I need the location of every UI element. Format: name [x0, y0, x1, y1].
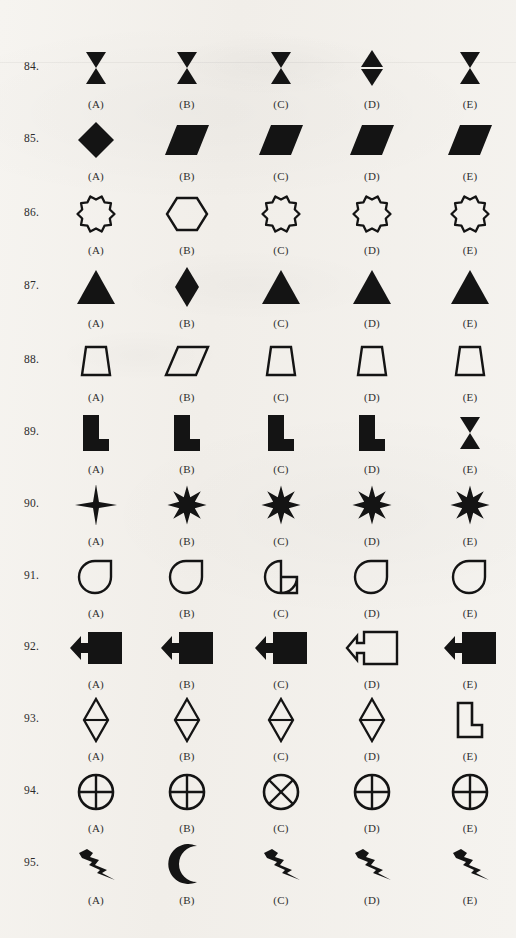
answer-option[interactable]: (E) [424, 477, 516, 547]
answer-option-label: (E) [424, 678, 516, 690]
answer-option[interactable]: (B) [141, 549, 233, 619]
answer-option[interactable]: (E) [424, 186, 516, 256]
answer-option[interactable]: (B) [141, 112, 233, 182]
answer-option[interactable]: (E) [424, 405, 516, 475]
answer-option-label: (C) [235, 244, 327, 256]
answer-option[interactable]: (D) [326, 692, 418, 762]
parallelogram-filled-icon [326, 112, 418, 168]
trapezoid-outline-icon [50, 333, 142, 389]
answer-option-label: (A) [50, 463, 142, 475]
answer-option[interactable]: (E) [424, 692, 516, 762]
answer-option-label: (B) [141, 535, 233, 547]
answer-option[interactable]: (B) [141, 259, 233, 329]
answer-option[interactable]: (C) [235, 333, 327, 403]
answer-option-label: (D) [326, 750, 418, 762]
answer-option[interactable]: (D) [326, 764, 418, 834]
answer-option[interactable]: (D) [326, 549, 418, 619]
answer-option[interactable]: (E) [424, 259, 516, 329]
block-arrow-left-filled-icon [141, 620, 233, 676]
answer-option[interactable]: (C) [235, 405, 327, 475]
answer-option-label: (E) [424, 98, 516, 110]
answer-option[interactable]: (B) [141, 186, 233, 256]
answer-option-label: (E) [424, 391, 516, 403]
answer-option[interactable]: (C) [235, 112, 327, 182]
answer-option[interactable]: (C) [235, 764, 327, 834]
answer-option[interactable]: (D) [326, 405, 418, 475]
answer-option[interactable]: (E) [424, 620, 516, 690]
answer-option[interactable]: (E) [424, 764, 516, 834]
answer-option-label: (A) [50, 678, 142, 690]
answer-option[interactable]: (A) [50, 836, 142, 906]
answer-option[interactable]: (D) [326, 477, 418, 547]
diamond-bisected-outline-icon [141, 692, 233, 748]
answer-option[interactable]: (B) [141, 836, 233, 906]
answer-option[interactable]: (B) [141, 333, 233, 403]
answer-option-label: (A) [50, 607, 142, 619]
answer-option[interactable]: (A) [50, 692, 142, 762]
lightning-bolt-filled-icon [326, 836, 418, 892]
answer-option-label: (C) [235, 822, 327, 834]
scanned-worksheet-page: 84.(A)(B)(C)(D)(E)85.(A)(B)(C)(D)(E)86.(… [0, 0, 516, 938]
trapezoid-outline-icon [424, 333, 516, 389]
question-number: 89. [24, 425, 39, 437]
answer-option[interactable]: (C) [235, 836, 327, 906]
question-number: 91. [24, 569, 39, 581]
answer-option[interactable]: (A) [50, 112, 142, 182]
l-block-filled-icon [50, 405, 142, 461]
answer-option-label: (E) [424, 535, 516, 547]
answer-option[interactable]: (A) [50, 477, 142, 547]
answer-option-label: (C) [235, 391, 327, 403]
answer-option[interactable]: (E) [424, 836, 516, 906]
eight-point-star-filled-icon [326, 477, 418, 533]
hourglass-bowtie-vertical-icon [424, 405, 516, 461]
answer-option[interactable]: (E) [424, 112, 516, 182]
answer-option[interactable]: (B) [141, 40, 233, 110]
answer-option[interactable]: (D) [326, 620, 418, 690]
eight-point-star-filled-icon [235, 477, 327, 533]
answer-option[interactable]: (E) [424, 549, 516, 619]
answer-option[interactable]: (D) [326, 112, 418, 182]
answer-option-label: (D) [326, 170, 418, 182]
answer-option-label: (A) [50, 317, 142, 329]
answer-option[interactable]: (C) [235, 40, 327, 110]
answer-option[interactable]: (D) [326, 186, 418, 256]
answer-option[interactable]: (A) [50, 549, 142, 619]
answer-option[interactable]: (A) [50, 333, 142, 403]
answer-option[interactable]: (C) [235, 186, 327, 256]
answer-option-label: (A) [50, 822, 142, 834]
answer-option[interactable]: (C) [235, 259, 327, 329]
answer-option[interactable]: (B) [141, 477, 233, 547]
answer-option[interactable]: (D) [326, 259, 418, 329]
answer-option[interactable]: (A) [50, 186, 142, 256]
answer-option[interactable]: (D) [326, 333, 418, 403]
answer-option[interactable]: (B) [141, 692, 233, 762]
answer-option[interactable]: (C) [235, 620, 327, 690]
answer-option-label: (D) [326, 463, 418, 475]
question-number: 94. [24, 784, 39, 796]
answer-option[interactable]: (E) [424, 333, 516, 403]
answer-option[interactable]: (B) [141, 764, 233, 834]
answer-option[interactable]: (B) [141, 405, 233, 475]
circle-cross-outline-icon [235, 764, 327, 820]
diamond-bisected-outline-icon [235, 692, 327, 748]
answer-option[interactable]: (D) [326, 836, 418, 906]
answer-option[interactable]: (E) [424, 40, 516, 110]
question-number: 86. [24, 206, 39, 218]
answer-option[interactable]: (C) [235, 692, 327, 762]
scalloped-star-outline-icon [50, 186, 142, 242]
answer-option[interactable]: (C) [235, 549, 327, 619]
l-block-outline-icon [424, 692, 516, 748]
answer-option[interactable]: (D) [326, 40, 418, 110]
answer-option[interactable]: (C) [235, 477, 327, 547]
triangle-filled-icon [235, 259, 327, 315]
hexagon-outline-icon [141, 186, 233, 242]
hourglass-bowtie-vertical-icon [50, 40, 142, 96]
answer-option[interactable]: (A) [50, 40, 142, 110]
answer-option[interactable]: (A) [50, 405, 142, 475]
answer-option[interactable]: (A) [50, 764, 142, 834]
answer-option[interactable]: (B) [141, 620, 233, 690]
answer-option-label: (A) [50, 535, 142, 547]
eight-point-star-filled-icon [424, 477, 516, 533]
answer-option[interactable]: (A) [50, 620, 142, 690]
answer-option[interactable]: (A) [50, 259, 142, 329]
